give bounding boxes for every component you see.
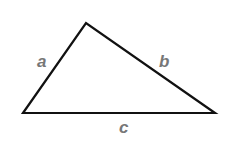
side-label-b: b — [159, 52, 169, 71]
triangle-shape — [23, 23, 215, 113]
side-label-c: c — [119, 118, 129, 137]
side-label-a: a — [37, 52, 46, 71]
triangle-diagram: a b c — [0, 0, 236, 150]
